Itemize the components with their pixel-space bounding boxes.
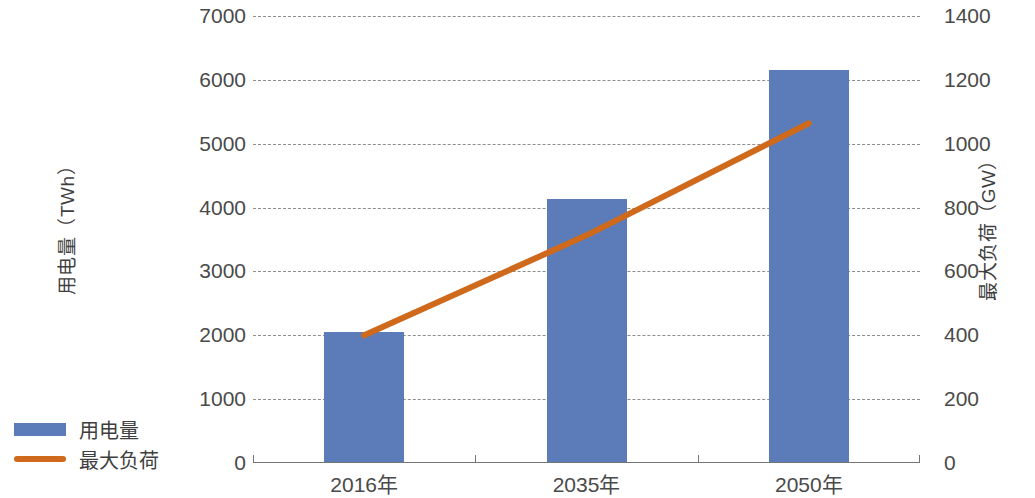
y-axis-right-tick-label: 1400 — [944, 5, 991, 26]
y-axis-right-tick-label: 400 — [944, 324, 979, 345]
legend-item-label: 用电量 — [79, 415, 139, 444]
plot-area — [253, 16, 920, 463]
x-axis-tick-mark — [698, 455, 699, 463]
y-axis-left-tick-label: 6000 — [199, 69, 246, 90]
legend-item-line[interactable]: 最大负荷 — [14, 444, 174, 474]
y-axis-left-tick-label: 2000 — [199, 324, 246, 345]
y-axis-left-ticks: 01000200030004000500060007000 — [178, 0, 246, 494]
x-axis-line — [253, 462, 920, 463]
y-axis-right-tick-label: 600 — [944, 260, 979, 281]
y-axis-left-tick-label: 7000 — [199, 5, 246, 26]
y-axis-left-tick-label: 4000 — [199, 197, 246, 218]
chart-legend: 用电量 最大负荷 — [14, 414, 174, 474]
y-axis-right-tick-label: 800 — [944, 197, 979, 218]
y-axis-left-tick-label: 0 — [234, 452, 246, 473]
x-axis-tick-mark — [919, 455, 920, 463]
legend-item-label: 最大负荷 — [79, 445, 159, 474]
y-axis-left-tick-label: 3000 — [199, 260, 246, 281]
y-axis-right-ticks: 0200400600800100012001400 — [944, 0, 1024, 494]
y-axis-right-tick-label: 1200 — [944, 69, 991, 90]
x-axis-category-label: 2016年 — [330, 468, 398, 498]
y-axis-left-tick-label: 5000 — [199, 133, 246, 154]
x-axis-category-label: 2050年 — [775, 468, 843, 498]
x-axis-tick-mark — [253, 455, 254, 463]
x-axis-category-label: 2035年 — [553, 468, 621, 498]
x-axis-tick-mark — [475, 455, 476, 463]
y-axis-right-tick-label: 0 — [944, 452, 956, 473]
line-series — [253, 16, 920, 463]
line-path — [364, 123, 809, 335]
legend-item-bar[interactable]: 用电量 — [14, 414, 174, 444]
y-axis-left-tick-label: 1000 — [199, 388, 246, 409]
legend-bar-swatch-icon — [14, 423, 66, 436]
y-axis-right-tick-label: 1000 — [944, 133, 991, 154]
y-axis-right-tick-label: 200 — [944, 388, 979, 409]
x-axis-labels: 2016年2035年2050年 — [253, 468, 920, 496]
legend-line-swatch-icon — [14, 456, 66, 462]
y-axis-left-title: 用电量（TWh） — [52, 106, 79, 346]
